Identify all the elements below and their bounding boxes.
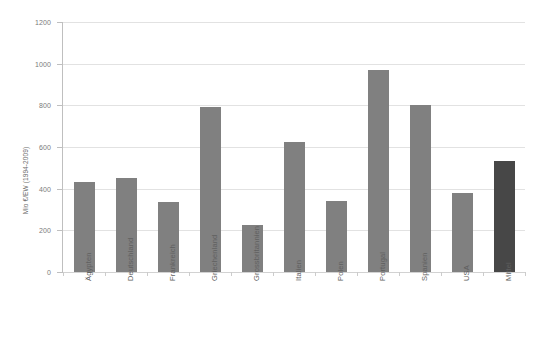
x-axis-tick-mark xyxy=(273,272,274,276)
y-axis-tick-mark xyxy=(57,22,62,23)
x-axis-tick-mark xyxy=(189,272,190,276)
x-axis-tick-mark xyxy=(483,272,484,276)
x-axis-label-text: Frankreich xyxy=(168,244,177,281)
x-axis-label: Spanien xyxy=(413,281,427,361)
x-axis-tick-mark xyxy=(357,272,358,276)
y-axis-tick-mark xyxy=(57,64,62,65)
x-axis-tick-mark xyxy=(63,272,64,276)
y-axis-tick-label: 200 xyxy=(11,227,51,234)
x-axis-label-text: Portugal xyxy=(378,252,387,281)
y-axis-tick-label: 1200 xyxy=(11,19,51,26)
y-axis-tick-mark xyxy=(57,105,62,106)
x-axis-label-text: Polen xyxy=(336,261,345,281)
x-axis-tick-mark xyxy=(441,272,442,276)
x-axis-label-text: Mittel xyxy=(504,262,513,281)
x-axis-tick-mark xyxy=(231,272,232,276)
x-axis-label: Mittel xyxy=(497,281,511,361)
gridline xyxy=(63,64,525,65)
y-axis-title-label: Mio €/EW (1994-2009) xyxy=(23,146,30,213)
bar xyxy=(452,193,473,272)
y-axis-tick-mark xyxy=(57,189,62,190)
x-axis-label: Polen xyxy=(329,281,343,361)
y-axis-tick-label: 800 xyxy=(11,102,51,109)
gridline xyxy=(63,22,525,23)
x-axis-tick-mark xyxy=(315,272,316,276)
x-axis-label: Deutschland xyxy=(119,281,133,361)
y-axis-tick-mark xyxy=(57,147,62,148)
x-axis-label-text: Griechenland xyxy=(210,235,219,281)
x-axis-label: USA xyxy=(455,281,469,361)
x-axis-label: Frankreich xyxy=(161,281,175,361)
x-axis-label: Griechenland xyxy=(203,281,217,361)
bar xyxy=(494,161,515,272)
bar xyxy=(410,105,431,272)
x-axis-tick-mark xyxy=(105,272,106,276)
y-axis-tick-label: 600 xyxy=(11,144,51,151)
x-axis-label-text: Deutschland xyxy=(126,238,135,281)
x-axis-label: Portugal xyxy=(371,281,385,361)
bar xyxy=(368,70,389,272)
x-axis-label-text: Grossbritannien xyxy=(252,226,261,281)
bar-chart: Mio €/EW (1994-2009) 0200400600800100012… xyxy=(0,0,543,364)
x-axis-label: Grossbritannien xyxy=(245,281,259,361)
x-axis-label: Italien xyxy=(287,281,301,361)
x-axis-tick-mark xyxy=(147,272,148,276)
bar xyxy=(284,142,305,272)
x-axis-tick-mark xyxy=(525,272,526,276)
y-axis-tick-label: 400 xyxy=(11,185,51,192)
gridline xyxy=(63,105,525,106)
x-axis-label: Ägypten xyxy=(77,281,91,361)
x-axis-label-text: USA xyxy=(462,265,471,281)
x-axis-label-text: Ägypten xyxy=(84,252,93,281)
y-axis-tick-mark xyxy=(57,272,62,273)
x-axis-label-text: Spanien xyxy=(420,252,429,281)
y-axis-tick-label: 0 xyxy=(11,269,51,276)
y-axis-tick-label: 1000 xyxy=(11,60,51,67)
y-axis-tick-mark xyxy=(57,230,62,231)
x-axis-label-text: Italien xyxy=(294,260,303,281)
x-axis-tick-mark xyxy=(399,272,400,276)
